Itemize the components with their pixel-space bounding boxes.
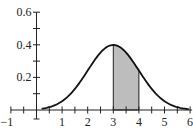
shaded-area xyxy=(113,45,139,110)
x-tick-label: 2 xyxy=(85,115,91,129)
y-tick-label: 0.6 xyxy=(17,5,32,19)
x-tick-label: 1 xyxy=(59,115,65,129)
y-axis xyxy=(33,12,40,119)
y-tick-label: 0.2 xyxy=(17,70,32,84)
normal-curve-chart: −1123456 0.20.40.6 xyxy=(0,0,193,135)
x-axis xyxy=(11,107,192,114)
x-tick-label: −1 xyxy=(1,115,14,129)
x-tick-label: 6 xyxy=(187,115,193,129)
x-tick-label: 4 xyxy=(136,115,142,129)
y-tick-label: 0.4 xyxy=(17,38,32,52)
x-tick-label: 3 xyxy=(110,115,116,129)
y-tick-labels: 0.20.40.6 xyxy=(17,5,32,84)
x-tick-label: 5 xyxy=(162,115,168,129)
x-tick-labels: −1123456 xyxy=(1,115,193,129)
